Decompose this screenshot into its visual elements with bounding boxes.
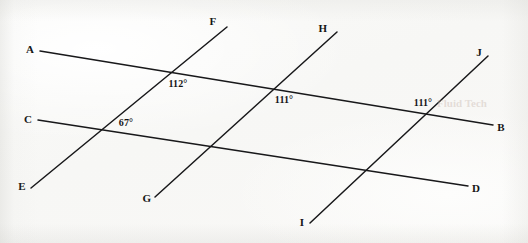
- angle-112: 112°: [169, 79, 188, 89]
- geometry-diagram: AFHJCBEGDI 112°67°111°111° Fluid Tech: [0, 0, 528, 243]
- lines-group: [31, 27, 493, 223]
- angle-67: 67°: [119, 118, 133, 128]
- point-label-j: J: [476, 47, 482, 58]
- point-label-b: B: [497, 122, 505, 133]
- point-label-c: C: [24, 114, 32, 125]
- point-label-f: F: [210, 16, 217, 27]
- angle-111-left: 111°: [275, 95, 293, 105]
- point-label-h: H: [319, 23, 328, 34]
- point-label-a: A: [26, 44, 34, 55]
- point-label-d: D: [472, 183, 480, 194]
- line-ab: [40, 51, 493, 125]
- point-label-i: I: [300, 217, 304, 228]
- line-gh: [155, 32, 337, 197]
- point-label-g: G: [143, 193, 152, 204]
- line-ef: [31, 27, 227, 188]
- line-ij: [310, 56, 488, 223]
- angle-111-right: 111°: [414, 98, 432, 108]
- diagram-line-layer: [0, 0, 528, 243]
- point-label-e: E: [18, 181, 26, 192]
